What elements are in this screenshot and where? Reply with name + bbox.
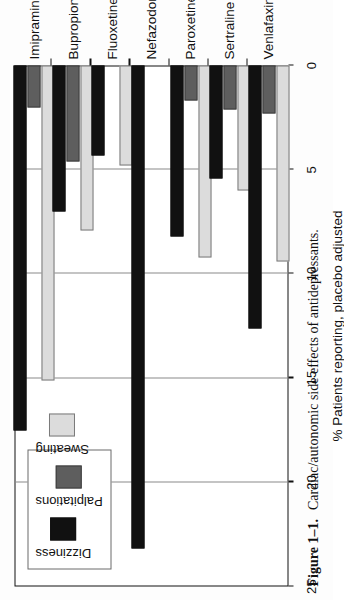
legend-entry-sweating: Sweating	[35, 413, 88, 456]
legend-swatch-sweating	[49, 413, 75, 436]
legend-label-palpitations: Palpitations	[35, 493, 102, 508]
bar-venlafaxine-palpitations	[262, 65, 275, 113]
bar-bupropion-dizziness	[52, 65, 65, 211]
category-label-nefazodone: Nefazodone	[144, 0, 159, 59]
bar-bupropion-palpitations	[66, 65, 79, 161]
tick-15	[288, 376, 293, 377]
legend-entry-palpitations: Palpitations	[35, 465, 102, 508]
category-label-venlafaxine: Venlafaxine	[261, 0, 276, 59]
category-separator-tick	[207, 58, 208, 65]
bar-imipramine-palpitations	[27, 65, 40, 107]
bar-sertraline-dizziness	[209, 65, 222, 178]
tick-25	[288, 585, 293, 586]
category-label-sertraline: Sertraline	[222, 1, 237, 59]
category-separator-tick	[246, 58, 247, 65]
category-label-paroxetine: Paroxetine	[183, 0, 198, 59]
category-separator-tick	[128, 58, 129, 65]
category-label-bupropion: Bupropion	[65, 0, 80, 59]
bar-venlafaxine-dizziness	[248, 65, 261, 328]
category-label-imipramine: Imipramine	[26, 0, 41, 59]
category-label-fluoxetine: Fluoxetine	[104, 0, 119, 59]
legend-swatch-dizziness	[50, 517, 76, 540]
bar-venlafaxine-sweating	[276, 65, 289, 261]
bar-sertraline-palpitations	[223, 65, 236, 109]
category-separator-tick	[89, 58, 90, 65]
legend-swatch-palpitations	[56, 465, 82, 488]
bar-imipramine-dizziness	[13, 65, 26, 430]
axis-title: % Patients reporting, placebo adjusted	[329, 65, 344, 586]
bar-fluoxetine-dizziness	[91, 65, 104, 155]
bar-paroxetine-dizziness	[170, 65, 183, 236]
bar-nefazodone-dizziness	[131, 65, 144, 548]
figure-caption-text: Cardiac/autonomic side effects of antide…	[305, 229, 320, 510]
gridline-10	[14, 272, 288, 273]
category-separator-tick	[168, 58, 169, 65]
legend-label-sweating: Sweating	[35, 441, 88, 456]
tick-10	[288, 272, 293, 273]
legend-label-dizziness: Dizziness	[35, 545, 91, 560]
figure-number: Figure 1–1.	[305, 519, 320, 586]
tick-20	[288, 480, 293, 481]
category-separator-tick	[50, 58, 51, 65]
figure-caption: Figure 1–1.Cardiac/autonomic side effect…	[305, 66, 321, 586]
legend-entry-dizziness: Dizziness	[35, 517, 91, 560]
legend: Dizziness Palpitations Sweating	[27, 449, 111, 569]
gridline-15	[14, 377, 288, 378]
bar-paroxetine-palpitations	[184, 65, 197, 100]
